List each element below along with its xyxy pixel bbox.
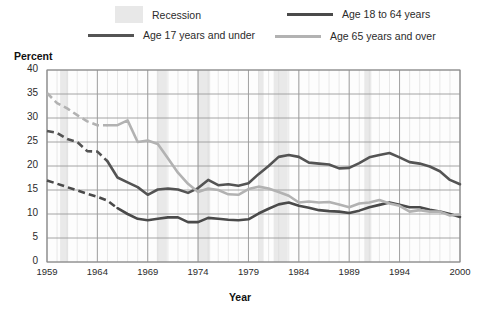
y-axis-tick-label: 20 xyxy=(14,159,38,170)
x-axis-tick-label: 1974 xyxy=(178,266,218,277)
y-axis-tick-label: 25 xyxy=(14,135,38,146)
x-axis-tick-label: 1984 xyxy=(279,266,319,277)
x-axis-tick-label: 1979 xyxy=(228,266,268,277)
x-axis-tick-label: 1989 xyxy=(329,266,369,277)
x-axis-tick-label: 1969 xyxy=(128,266,168,277)
y-axis-tick-label: 10 xyxy=(14,207,38,218)
y-axis-tick-label: 15 xyxy=(14,183,38,194)
x-axis-tick-label: 1994 xyxy=(380,266,420,277)
y-axis-tick-label: 30 xyxy=(14,111,38,122)
y-axis-tick-label: 35 xyxy=(14,87,38,98)
line-chart-svg xyxy=(0,0,480,311)
x-axis-tick-label: 2000 xyxy=(440,266,480,277)
x-axis-tick-label: 1959 xyxy=(27,266,67,277)
y-axis-tick-label: 0 xyxy=(14,255,38,266)
x-axis-tick-label: 1964 xyxy=(77,266,117,277)
y-axis-tick-label: 5 xyxy=(14,231,38,242)
y-axis-tick-label: 40 xyxy=(14,63,38,74)
chart-plot-area: 0510152025303540 19591964196919741979198… xyxy=(0,0,480,311)
